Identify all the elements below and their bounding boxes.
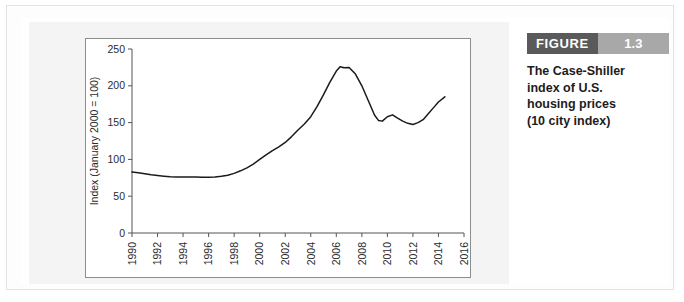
figure-inner-panel: 0501001502002501990199219941996199820002…: [21, 18, 669, 284]
figure-root: 0501001502002501990199219941996199820002…: [0, 0, 684, 302]
caption-line-2: index of U.S.: [527, 80, 667, 97]
chart-block: 0501001502002501990199219941996199820002…: [29, 22, 509, 284]
chart-axes: [29, 22, 509, 284]
figure-badge: FIGURE 1.3: [527, 33, 669, 54]
figure-caption: The Case-Shiller index of U.S. housing p…: [527, 63, 667, 129]
caption-column: FIGURE 1.3 The Case-Shiller index of U.S…: [519, 22, 669, 284]
figure-badge-word: FIGURE: [527, 33, 598, 54]
figure-outer-frame: 0501001502002501990199219941996199820002…: [6, 5, 674, 290]
caption-line-3: housing prices: [527, 96, 667, 113]
caption-line-1: The Case-Shiller: [527, 63, 667, 80]
caption-line-4: (10 city index): [527, 113, 667, 130]
figure-badge-number: 1.3: [598, 33, 669, 54]
